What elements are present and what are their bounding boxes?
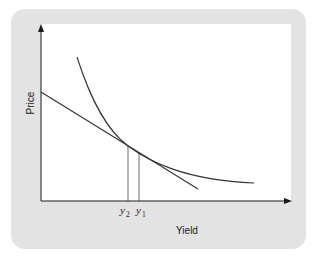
plot-area bbox=[41, 24, 291, 201]
svg-text:2: 2 bbox=[126, 210, 130, 219]
y-axis-label: Price bbox=[25, 91, 36, 114]
x-axis-label: Yield bbox=[176, 225, 198, 236]
price-yield-diagram: Price Yield y 2 y 1 bbox=[0, 0, 315, 258]
svg-text:1: 1 bbox=[142, 210, 146, 219]
svg-text:y: y bbox=[135, 204, 141, 216]
svg-text:y: y bbox=[119, 204, 125, 216]
